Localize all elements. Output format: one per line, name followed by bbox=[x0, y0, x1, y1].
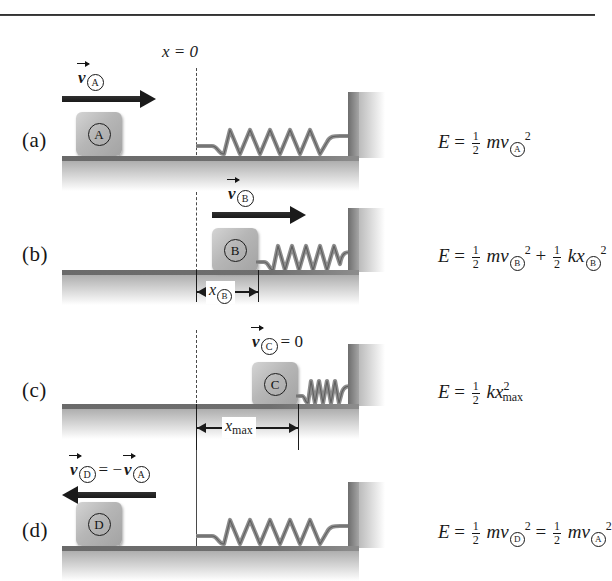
equation-a-fraction: 1 2 bbox=[472, 130, 480, 156]
dimension-b-tick-right bbox=[258, 270, 259, 302]
equation-b-fraction-2: 1 2 bbox=[553, 244, 561, 270]
spring-c bbox=[296, 372, 352, 408]
equation-b-sub-1: B bbox=[510, 256, 525, 271]
equation-b-lhs: E bbox=[438, 245, 450, 266]
equation-b-body-2: kx bbox=[568, 245, 585, 266]
equation-b-body-1: mv bbox=[487, 245, 509, 266]
block-b-letter: B bbox=[224, 239, 247, 262]
equation-c-equals: = bbox=[454, 381, 465, 402]
fraction-denominator: 2 bbox=[553, 534, 561, 547]
equation-b-fraction-1: 1 2 bbox=[472, 244, 480, 270]
equation-a-exponent: 2 bbox=[525, 129, 531, 143]
wall-a bbox=[348, 92, 359, 158]
block-b: B bbox=[212, 228, 258, 272]
wall-b bbox=[348, 208, 359, 272]
fraction-numerator: 1 bbox=[472, 380, 480, 394]
equation-d-fraction-1: 1 2 bbox=[472, 520, 480, 546]
equation-b-equals: = bbox=[454, 245, 465, 266]
dimension-b-arrow-right bbox=[249, 287, 258, 297]
fraction-numerator: 1 bbox=[472, 244, 480, 258]
fraction-denominator: 2 bbox=[472, 258, 480, 271]
dimension-b-label-body: x bbox=[209, 281, 216, 298]
wall-b-shadow bbox=[359, 208, 385, 272]
equation-d-body-2: mv bbox=[568, 521, 590, 542]
equation-d-fraction-2: 1 2 bbox=[553, 520, 561, 546]
equation-d-operator: = bbox=[535, 521, 546, 542]
equation-c-body: kx bbox=[487, 381, 504, 402]
fraction-numerator: 1 bbox=[472, 520, 480, 534]
panel-a: (a) x = 0 vA A E = 1 2 mvA2 bbox=[0, 30, 595, 180]
equation-b: E = 1 2 mvB2 + 1 2 kxB2 bbox=[438, 244, 607, 271]
wall-c-shadow bbox=[359, 344, 385, 406]
equation-d-sup-1: 2 bbox=[525, 519, 531, 533]
velocity-label-d: vD= −vA bbox=[70, 460, 150, 483]
block-d-letter: D bbox=[88, 513, 111, 536]
panel-c: (c) vC= 0 C xmax E = 1 2 kx2max bbox=[0, 320, 595, 450]
panel-c-label: (c) bbox=[22, 378, 47, 403]
velocity-label-a: vA bbox=[78, 68, 104, 91]
circled-letter-b: B bbox=[237, 190, 254, 207]
spring-b bbox=[256, 238, 352, 274]
spring-a bbox=[196, 122, 350, 158]
fraction-denominator: 2 bbox=[472, 534, 480, 547]
panel-b: (b) vB B xB E = 1 2 mvB2 + 1 2 bbox=[0, 180, 595, 320]
x-zero-label: x = 0 bbox=[162, 42, 198, 62]
circled-letter-a-ref: A bbox=[133, 466, 150, 483]
page-top-rule bbox=[0, 14, 595, 16]
equation-c-lhs: E bbox=[438, 381, 450, 402]
velocity-c-value: = 0 bbox=[281, 332, 303, 351]
equation-c: E = 1 2 kx2max bbox=[438, 380, 523, 406]
equation-b-operator: + bbox=[535, 245, 546, 266]
velocity-label-b: vB bbox=[228, 184, 254, 207]
ground-d-shadow bbox=[62, 551, 359, 581]
equation-b-sup-2: 2 bbox=[601, 243, 607, 257]
velocity-arrow-a-shaft bbox=[62, 96, 140, 102]
wall-c bbox=[348, 344, 359, 406]
velocity-arrow-b-shaft bbox=[212, 212, 290, 218]
equation-d-sub-2: A bbox=[591, 532, 606, 547]
ground-c-shadow bbox=[62, 409, 359, 439]
panel-d-label: (d) bbox=[22, 518, 48, 543]
block-c: C bbox=[252, 362, 298, 406]
velocity-arrow-d-head bbox=[62, 486, 78, 504]
equation-d-sup-2: 2 bbox=[606, 519, 612, 533]
equation-d: E = 1 2 mvD2 = 1 2 mvA2 bbox=[438, 520, 612, 547]
equation-a-body: mv bbox=[487, 131, 509, 152]
spring-d bbox=[196, 512, 350, 548]
equation-d-sub-1: D bbox=[510, 532, 525, 547]
block-a-letter: A bbox=[88, 123, 111, 146]
dimension-b-label: xB bbox=[206, 281, 235, 304]
panel-d: (d) vD= −vA D E = 1 2 mvD2 = 1 2 mvA2 bbox=[0, 450, 595, 576]
wall-d bbox=[348, 482, 359, 548]
velocity-arrow-a-head bbox=[140, 90, 156, 108]
dimension-c-arrow-left bbox=[197, 423, 206, 433]
dimension-c-label: xmax bbox=[222, 417, 256, 438]
block-a: A bbox=[76, 112, 122, 156]
equation-a: E = 1 2 mvA2 bbox=[438, 130, 531, 157]
velocity-label-c: vC= 0 bbox=[252, 332, 303, 355]
equation-b-sup-1: 2 bbox=[525, 243, 531, 257]
fraction-numerator: 1 bbox=[472, 130, 480, 144]
dimension-b-label-sub: B bbox=[217, 289, 232, 304]
circled-letter-c: C bbox=[261, 338, 278, 355]
equation-d-equals: = bbox=[454, 521, 465, 542]
equation-a-lhs: E bbox=[438, 131, 450, 152]
velocity-d-relation: = − bbox=[99, 460, 122, 479]
wall-d-shadow bbox=[359, 482, 385, 548]
velocity-arrow-b-head bbox=[290, 206, 306, 224]
wall-a-shadow bbox=[359, 92, 385, 158]
equation-b-sub-2: B bbox=[586, 256, 601, 271]
panel-b-label: (b) bbox=[22, 242, 48, 267]
fraction-denominator: 2 bbox=[553, 258, 561, 271]
x-zero-dashed-line-b bbox=[196, 192, 197, 272]
block-d: D bbox=[76, 502, 122, 546]
dimension-c-tick-right bbox=[298, 404, 299, 450]
fraction-numerator: 1 bbox=[553, 520, 561, 534]
equation-a-equals: = bbox=[454, 131, 465, 152]
dimension-b-arrow-left bbox=[197, 287, 206, 297]
equation-c-subscript: max bbox=[502, 390, 523, 404]
fraction-denominator: 2 bbox=[472, 144, 480, 157]
equation-d-lhs: E bbox=[438, 521, 450, 542]
equation-a-subscript: A bbox=[510, 142, 525, 157]
equation-c-fraction: 1 2 bbox=[472, 380, 480, 406]
